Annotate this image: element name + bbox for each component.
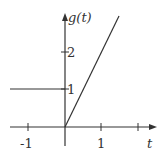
y-axis-label: g(t) xyxy=(68,10,92,25)
x-tick-label-neg1: -1 xyxy=(20,136,33,151)
series-ramp-segment xyxy=(65,16,119,127)
plot-area: -1 1 1 2 g(t) t xyxy=(0,0,161,152)
y-tick-label-1: 1 xyxy=(67,82,75,97)
x-axis-label: t xyxy=(147,136,153,151)
y-tick-label-2: 2 xyxy=(67,45,75,60)
x-axis-arrow-icon xyxy=(149,124,157,130)
x-tick-label-1: 1 xyxy=(97,136,105,151)
